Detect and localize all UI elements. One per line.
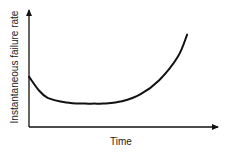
x-axis-label: Time — [110, 136, 132, 147]
bathtub-chart — [0, 0, 231, 154]
y-axis-label: Instantaneous failure rate — [9, 11, 20, 124]
failure-rate-curve — [29, 35, 187, 104]
